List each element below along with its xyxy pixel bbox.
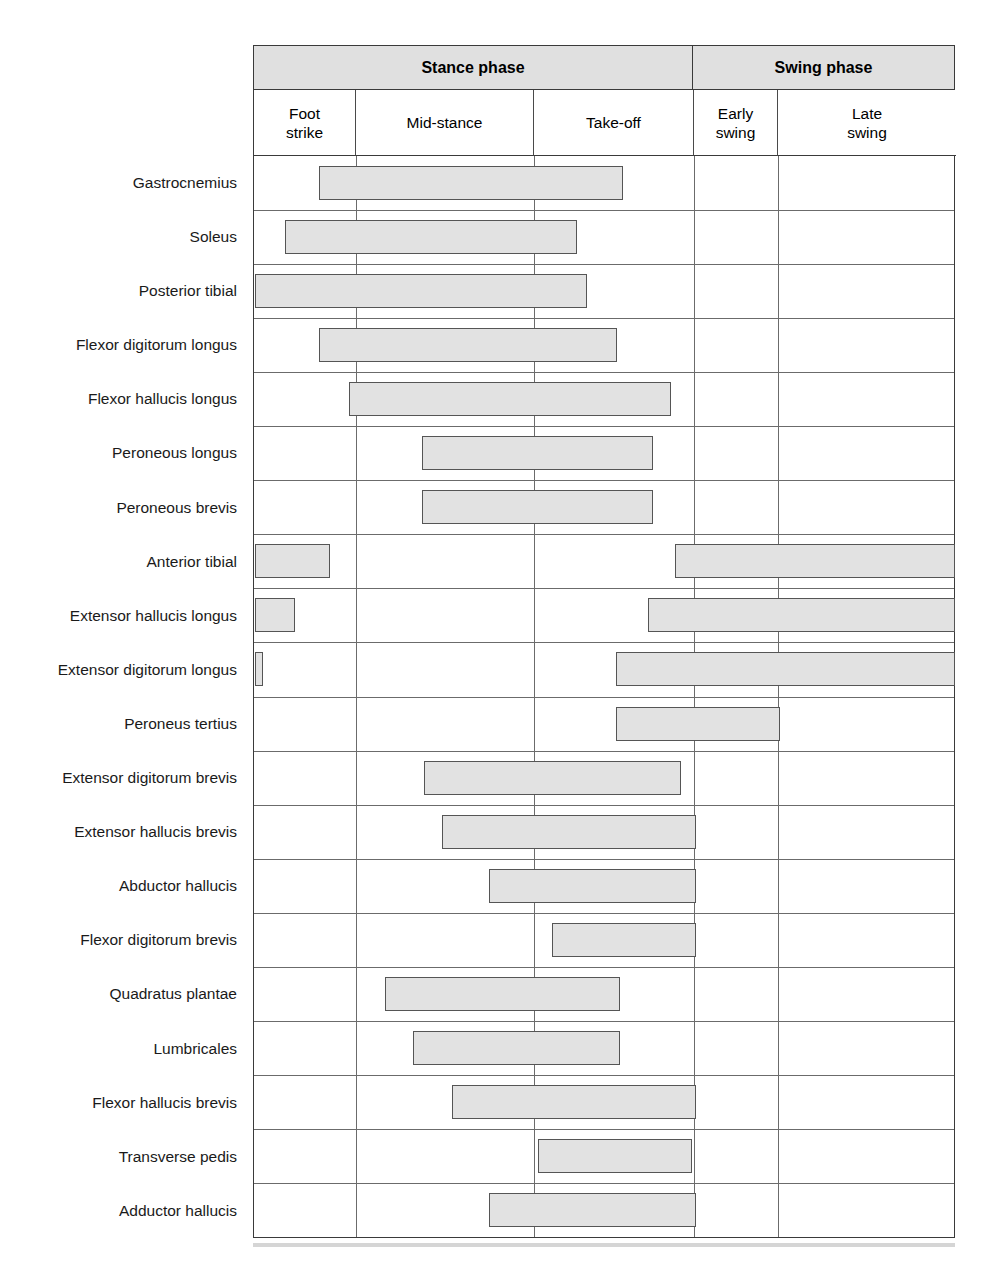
grid-hline [254, 264, 954, 265]
muscle-label: Posterior tibial [0, 264, 245, 318]
activity-bar [422, 490, 653, 524]
muscle-label: Flexor digitorum longus [0, 318, 245, 372]
grid-hline [254, 967, 954, 968]
grid-hline [254, 751, 954, 752]
grid-hline [254, 210, 954, 211]
grid-hline [254, 697, 954, 698]
muscle-label: Soleus [0, 210, 245, 264]
activity-bar [255, 274, 587, 308]
subphase-header-late_swing: Lateswing [778, 90, 956, 156]
subphase-header-foot_strike: Footstrike [254, 90, 356, 156]
chart-grid [254, 156, 954, 1237]
activity-bar [489, 1193, 696, 1227]
grid-hline [254, 318, 954, 319]
muscle-label-column: GastrocnemiusSoleusPosterior tibialFlexo… [0, 156, 245, 1238]
figure-bottom-rule [253, 1243, 955, 1247]
muscle-label: Anterior tibial [0, 535, 245, 589]
subphase-header-early_swing: Earlyswing [694, 90, 778, 156]
muscle-label: Flexor digitorum brevis [0, 913, 245, 967]
phase-header-swing-label: Swing phase [775, 59, 873, 77]
muscle-label: Peroneus tertius [0, 697, 245, 751]
subphase-header-label: Mid-stance [407, 113, 483, 132]
activity-bar [255, 652, 263, 686]
grid-hline [254, 1129, 954, 1130]
muscle-label: Lumbricales [0, 1022, 245, 1076]
grid-hline [254, 480, 954, 481]
subphase-header-row: FootstrikeMid-stanceTake-offEarlyswingLa… [254, 90, 954, 156]
activity-bar [616, 652, 955, 686]
phase-header-swing: Swing phase [693, 46, 954, 90]
muscle-label: Abductor hallucis [0, 859, 245, 913]
phase-header-row: Stance phase Swing phase [254, 46, 954, 90]
activity-bar [489, 869, 696, 903]
subphase-header-mid_stance: Mid-stance [356, 90, 534, 156]
activity-bar [349, 382, 671, 416]
muscle-label: Gastrocnemius [0, 156, 245, 210]
subphase-header-take_off: Take-off [534, 90, 694, 156]
muscle-label: Quadratus plantae [0, 967, 245, 1021]
phase-header-stance-label: Stance phase [421, 59, 524, 77]
activity-bar [452, 1085, 696, 1119]
grid-hline [254, 913, 954, 914]
subphase-header-label: Footstrike [286, 104, 323, 142]
grid-hline [254, 426, 954, 427]
subphase-header-label: Lateswing [847, 104, 887, 142]
activity-bar [285, 220, 577, 254]
activity-bar [413, 1031, 620, 1065]
subphase-header-label: Earlyswing [716, 104, 756, 142]
activity-bar [422, 436, 653, 470]
muscle-label: Extensor hallucis longus [0, 589, 245, 643]
muscle-label: Extensor hallucis brevis [0, 805, 245, 859]
muscle-label: Peroneous longus [0, 426, 245, 480]
activity-bar [424, 761, 681, 795]
activity-bar [552, 923, 696, 957]
activity-bar [255, 544, 330, 578]
activity-bar [616, 707, 780, 741]
muscle-label: Peroneous brevis [0, 481, 245, 535]
grid-hline [254, 588, 954, 589]
muscle-label: Adductor hallucis [0, 1184, 245, 1238]
activity-bar [385, 977, 620, 1011]
grid-hline [254, 534, 954, 535]
activity-bar [255, 598, 295, 632]
muscle-label: Flexor hallucis longus [0, 372, 245, 426]
activity-bar [319, 166, 623, 200]
grid-hline [254, 859, 954, 860]
subphase-header-label: Take-off [586, 113, 641, 132]
grid-hline [254, 1183, 954, 1184]
muscle-label: Extensor digitorum brevis [0, 751, 245, 805]
gait-muscle-activity-figure: GastrocnemiusSoleusPosterior tibialFlexo… [0, 0, 998, 1261]
grid-hline [254, 1075, 954, 1076]
activity-bar [648, 598, 955, 632]
grid-hline [254, 805, 954, 806]
activity-bar [442, 815, 696, 849]
muscle-label: Flexor hallucis brevis [0, 1076, 245, 1130]
grid-hline [254, 642, 954, 643]
activity-bar [319, 328, 617, 362]
muscle-label: Transverse pedis [0, 1130, 245, 1184]
activity-bar [538, 1139, 692, 1173]
phase-header-stance: Stance phase [254, 46, 693, 90]
activity-bar [675, 544, 955, 578]
gait-phase-table: Stance phase Swing phase FootstrikeMid-s… [253, 45, 955, 1238]
grid-hline [254, 372, 954, 373]
muscle-label: Extensor digitorum longus [0, 643, 245, 697]
grid-hline [254, 1021, 954, 1022]
